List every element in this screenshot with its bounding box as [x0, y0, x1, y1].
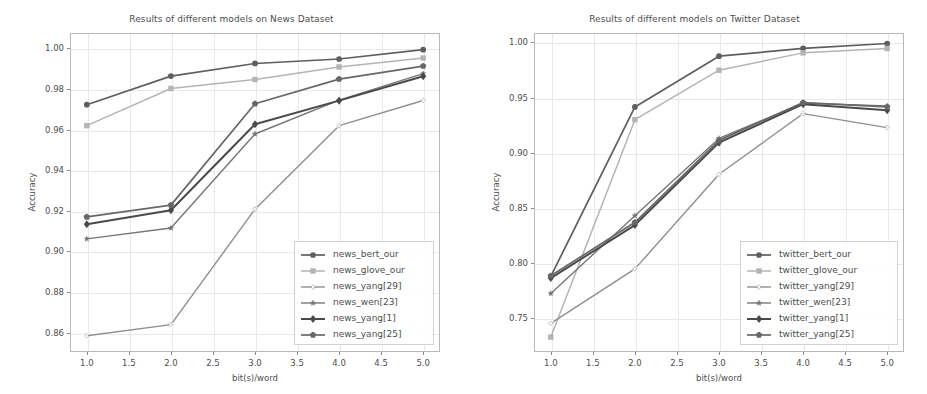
legend-label: news_wen[23] [333, 298, 398, 307]
x-tick-mark [845, 352, 846, 355]
legend-label: twitter_yang[29] [779, 282, 854, 291]
gridline-vertical [130, 34, 131, 351]
x-tick-mark [255, 352, 256, 355]
x-tick-mark [213, 352, 214, 355]
x-tick-label: 1.0 [544, 358, 558, 368]
x-tick-label: 4.5 [838, 358, 852, 368]
legend-label: twitter_yang[1] [779, 314, 848, 323]
legend-item[interactable]: twitter_yang[29] [746, 278, 891, 294]
gridline-vertical [636, 34, 637, 351]
y-tick-label: 0.95 [492, 93, 528, 103]
x-tick-mark [887, 352, 888, 355]
legend-marker-icon [300, 295, 326, 309]
legend-marker-icon [746, 311, 772, 325]
y-tick-label: 0.85 [492, 203, 528, 213]
y-tick-mark [67, 333, 70, 334]
x-tick-label: 3.5 [290, 358, 304, 368]
legend-item[interactable]: news_glove_our [300, 262, 427, 278]
x-tick-label: 1.5 [586, 358, 600, 368]
gridline-vertical [172, 34, 173, 351]
x-tick-mark [381, 352, 382, 355]
legend-item[interactable]: news_yang[29] [300, 278, 427, 294]
gridline-vertical [552, 34, 553, 351]
gridline-horizontal [535, 154, 903, 155]
y-tick-label: 0.80 [492, 258, 528, 268]
gridline-horizontal [535, 209, 903, 210]
x-tick-label: 2.0 [628, 358, 642, 368]
legend-item[interactable]: twitter_bert_our [746, 246, 891, 262]
x-tick-mark [171, 352, 172, 355]
legend-item[interactable]: twitter_yang[25] [746, 326, 891, 342]
legend-item[interactable]: twitter_wen[23] [746, 294, 891, 310]
legend-marker-icon [300, 311, 326, 325]
gridline-horizontal [71, 212, 439, 213]
x-tick-mark [803, 352, 804, 355]
gridline-vertical [678, 34, 679, 351]
y-tick-label: 0.90 [492, 148, 528, 158]
x-tick-mark [87, 352, 88, 355]
gridline-vertical [594, 34, 595, 351]
gridline-horizontal [71, 90, 439, 91]
legend-label: twitter_wen[23] [779, 298, 850, 307]
x-tick-mark [635, 352, 636, 355]
x-tick-label: 5.0 [880, 358, 894, 368]
y-tick-label: 0.86 [28, 328, 64, 338]
legend-marker-icon [746, 279, 772, 293]
legend-item[interactable]: news_yang[1] [300, 310, 427, 326]
x-tick-label: 1.0 [80, 358, 94, 368]
y-tick-mark [67, 211, 70, 212]
y-tick-label: 0.96 [28, 125, 64, 135]
y-tick-label: 0.90 [28, 246, 64, 256]
gridline-horizontal [535, 99, 903, 100]
y-tick-mark [67, 292, 70, 293]
legend-marker-icon [746, 247, 772, 261]
y-tick-mark [67, 48, 70, 49]
gridline-vertical [88, 34, 89, 351]
y-tick-label: 0.88 [28, 287, 64, 297]
legend-label: twitter_yang[25] [779, 330, 854, 339]
figure-root: Results of different models on News Data… [0, 0, 927, 394]
legend-item[interactable]: news_yang[25] [300, 326, 427, 342]
legend-marker-icon [746, 263, 772, 277]
x-axis-label: bit(s)/word [696, 373, 742, 383]
legend-item[interactable]: news_wen[23] [300, 294, 427, 310]
x-tick-mark [129, 352, 130, 355]
legend-item[interactable]: twitter_yang[1] [746, 310, 891, 326]
x-tick-label: 3.5 [754, 358, 768, 368]
y-tick-mark [67, 251, 70, 252]
y-tick-mark [531, 318, 534, 319]
gridline-horizontal [71, 131, 439, 132]
legend-label: news_yang[1] [333, 314, 396, 323]
x-tick-label: 3.0 [712, 358, 726, 368]
gridline-horizontal [71, 171, 439, 172]
chart-title: Results of different models on Twitter D… [463, 14, 926, 24]
legend-label: news_bert_our [333, 250, 399, 259]
legend-item[interactable]: news_bert_our [300, 246, 427, 262]
gridline-vertical [256, 34, 257, 351]
y-tick-mark [531, 153, 534, 154]
legend-item[interactable]: twitter_glove_our [746, 262, 891, 278]
x-tick-mark [551, 352, 552, 355]
legend-marker-icon [300, 247, 326, 261]
x-tick-mark [719, 352, 720, 355]
x-tick-label: 2.5 [670, 358, 684, 368]
gridline-vertical [214, 34, 215, 351]
y-tick-label: 1.00 [492, 37, 528, 47]
y-tick-mark [67, 89, 70, 90]
x-tick-label: 4.0 [796, 358, 810, 368]
x-tick-mark [423, 352, 424, 355]
y-tick-label: 0.94 [28, 165, 64, 175]
x-tick-mark [593, 352, 594, 355]
legend-label: news_yang[29] [333, 282, 402, 291]
y-tick-label: 0.92 [28, 206, 64, 216]
y-tick-mark [531, 208, 534, 209]
x-tick-label: 2.5 [206, 358, 220, 368]
x-axis-label: bit(s)/word [232, 373, 278, 383]
legend-label: twitter_bert_our [779, 250, 851, 259]
y-tick-label: 0.98 [28, 84, 64, 94]
x-tick-label: 4.0 [332, 358, 346, 368]
x-tick-mark [297, 352, 298, 355]
x-tick-label: 3.0 [248, 358, 262, 368]
legend-label: news_glove_our [333, 266, 405, 275]
y-tick-mark [531, 263, 534, 264]
